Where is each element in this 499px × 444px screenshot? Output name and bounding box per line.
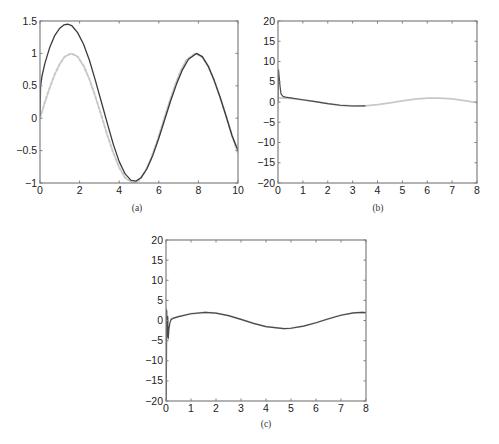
x-tick-label: 4 [263, 402, 269, 414]
x-tick-label: 8 [363, 402, 369, 414]
x-tick-label: 3 [238, 402, 244, 414]
x-tick-label: 2 [213, 402, 219, 414]
y-tick-label: −5 [151, 334, 163, 346]
series-line-0 [171, 312, 366, 328]
figure: 0246810−1−0.500.511.5 (a) 012345678−20−1… [0, 0, 499, 444]
x-tick-label: 5 [288, 402, 294, 414]
series-line-1 [166, 308, 366, 401]
caption-c: (c) [261, 419, 272, 429]
y-tick-label: 15 [151, 254, 163, 266]
y-tick-label: −10 [145, 354, 163, 366]
y-tick-label: −20 [145, 395, 163, 407]
x-tick-label: 7 [338, 402, 344, 414]
y-tick-label: 20 [151, 234, 163, 246]
y-tick-label: 10 [151, 274, 163, 286]
plot-c-canvas: 012345678−20−15−10−505101520 [0, 0, 499, 444]
y-tick-label: 0 [157, 314, 163, 326]
plot-c-frame [166, 240, 366, 401]
y-tick-label: −15 [145, 374, 163, 386]
x-tick-label: 6 [313, 402, 319, 414]
plot-c-series [166, 308, 366, 401]
x-tick-label: 0 [163, 402, 169, 414]
y-tick-label: 5 [157, 294, 163, 306]
x-tick-label: 1 [188, 402, 194, 414]
